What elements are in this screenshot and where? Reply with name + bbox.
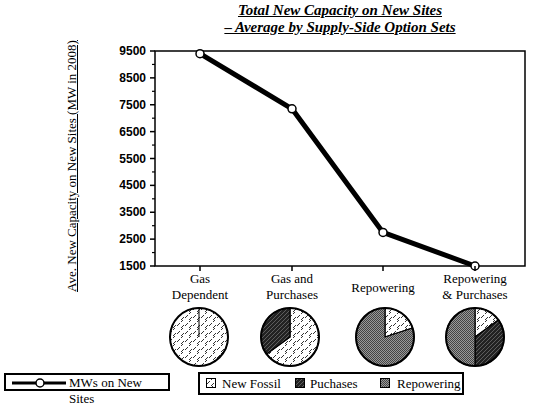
repowering-swatch-icon — [380, 378, 390, 388]
pie-legend: New Fossil Puchases Repowering — [198, 372, 464, 395]
line-legend-label: MWs on New Sites — [69, 375, 168, 407]
y-tick-label: 7500 — [119, 98, 146, 112]
line-series — [196, 50, 479, 270]
data-point-marker — [196, 50, 204, 58]
y-axis-ticks: 950085007500650055004500350025001500 — [119, 44, 155, 273]
svg-text:& Purchases: & Purchases — [442, 287, 507, 302]
x-axis-labels: GasDependentGas andPurchasesRepoweringRe… — [172, 266, 508, 302]
svg-text:Purchases: Purchases — [266, 287, 318, 302]
y-tick-label: 2500 — [119, 232, 146, 246]
purchases-swatch-icon — [295, 378, 305, 388]
line-legend: MWs on New Sites — [4, 373, 170, 391]
pie-chart — [170, 308, 228, 366]
svg-text:Repowering: Repowering — [351, 280, 415, 295]
y-tick-label: 8500 — [119, 71, 146, 85]
y-tick-label: 1500 — [119, 259, 146, 273]
svg-text:Gas: Gas — [190, 271, 210, 286]
svg-text:Repowering: Repowering — [443, 271, 507, 286]
y-tick-label: 9500 — [119, 44, 146, 58]
y-tick-label: 4500 — [119, 178, 146, 192]
line-marker-icon — [10, 376, 70, 390]
y-tick-label: 5500 — [119, 152, 146, 166]
legend-repowering: Repowering — [397, 376, 461, 392]
y-tick-label: 6500 — [119, 125, 146, 139]
svg-text:Gas and: Gas and — [271, 271, 314, 286]
plot-area — [155, 51, 525, 266]
chart-canvas: 950085007500650055004500350025001500 Gas… — [0, 0, 534, 407]
svg-text:Dependent: Dependent — [172, 287, 229, 302]
data-point-marker — [288, 105, 296, 113]
data-point-marker — [379, 228, 387, 236]
pie-chart — [261, 308, 319, 366]
new-fossil-swatch-icon — [206, 378, 216, 388]
y-tick-label: 3500 — [119, 205, 146, 219]
pie-chart — [446, 308, 504, 366]
legend-new-fossil: New Fossil — [222, 376, 281, 392]
legend-purchases: Puchases — [310, 376, 358, 392]
pie-chart — [356, 308, 414, 366]
pie-charts — [170, 308, 504, 366]
